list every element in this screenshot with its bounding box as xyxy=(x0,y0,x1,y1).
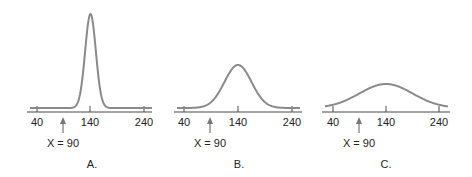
tick-label-140: 140 xyxy=(377,116,395,128)
panel-b: 40 140 240 X = 90 B. xyxy=(174,65,302,170)
tick-label-40: 40 xyxy=(31,116,43,128)
panel-a: 40 140 240 X = 90 A. xyxy=(27,14,153,170)
arrow-up-icon xyxy=(60,117,66,133)
marker-label: X = 90 xyxy=(47,137,79,149)
distribution-curve xyxy=(325,84,448,106)
distribution-curve xyxy=(177,65,300,108)
tick-label-40: 40 xyxy=(327,116,339,128)
normal-distributions-figure: 40 140 240 X = 90 A. 40 140 240 X = 90 B… xyxy=(0,0,472,177)
tick-label-140: 140 xyxy=(229,116,247,128)
arrow-up-icon xyxy=(207,117,213,133)
panel-label: A. xyxy=(87,158,97,170)
tick-label-140: 140 xyxy=(81,116,99,128)
tick-label-40: 40 xyxy=(178,116,190,128)
marker-label: X = 90 xyxy=(343,137,375,149)
marker-label: X = 90 xyxy=(194,137,226,149)
tick-label-240: 240 xyxy=(283,116,301,128)
tick-label-240: 240 xyxy=(430,116,448,128)
panel-label: C. xyxy=(381,158,392,170)
tick-label-240: 240 xyxy=(135,116,153,128)
panel-c: 40 140 240 X = 90 C. xyxy=(322,84,450,170)
arrow-up-icon xyxy=(356,117,362,133)
distribution-curve xyxy=(30,14,152,108)
panel-label: B. xyxy=(234,158,244,170)
